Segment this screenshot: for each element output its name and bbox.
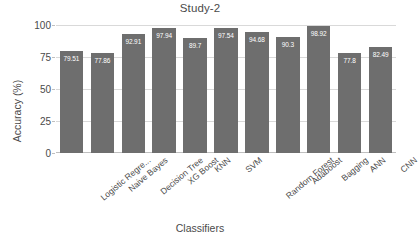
y-tick-mark — [52, 57, 55, 58]
bar-slot[interactable]: 77.8 — [334, 25, 365, 153]
y-tick-mark — [52, 25, 55, 26]
bar-value-label: 98.92 — [311, 30, 327, 37]
bar-slot[interactable]: 94.68 — [241, 25, 272, 153]
bar-slot[interactable]: 98.92 — [303, 25, 334, 153]
y-axis-title: Accuracy (%) — [11, 66, 23, 156]
y-tick-mark — [52, 89, 55, 90]
bar-slot[interactable]: 82.49 — [365, 25, 396, 153]
bar-slot[interactable]: 79.51 — [56, 25, 87, 153]
bar-slot[interactable]: 97.94 — [149, 25, 180, 153]
bar[interactable] — [60, 51, 83, 153]
y-tick-label: 0 — [45, 148, 51, 159]
bar[interactable] — [369, 47, 392, 153]
bar-value-label: 77.8 — [343, 57, 355, 64]
bar-value-label: 90.3 — [282, 41, 294, 48]
bar-value-label: 79.51 — [64, 55, 80, 62]
bar[interactable] — [338, 53, 361, 153]
bar[interactable] — [183, 38, 206, 153]
y-tick-label: 75 — [40, 52, 51, 63]
bar-value-label: 97.54 — [218, 32, 234, 39]
x-axis-title: Classifiers — [0, 222, 400, 234]
bar-slot[interactable]: 90.3 — [272, 25, 303, 153]
bar-slot[interactable]: 89.7 — [180, 25, 211, 153]
bar-value-label: 89.7 — [189, 42, 201, 49]
bar-slot[interactable]: 97.54 — [211, 25, 242, 153]
bar-slot[interactable]: 77.86 — [87, 25, 118, 153]
x-category-label: Bagging — [339, 155, 370, 183]
x-axis-category-labels: Logistic Regre...Naive BayesDecision Tre… — [56, 155, 396, 217]
bar[interactable] — [245, 32, 268, 153]
bar[interactable] — [307, 26, 330, 153]
bar-value-label: 92.91 — [125, 38, 141, 45]
y-tick-mark — [52, 121, 55, 122]
bar-value-label: 97.94 — [156, 32, 172, 39]
bar-value-label: 77.86 — [94, 57, 110, 64]
plot-area: 0255075100 79.5177.8692.9197.9489.797.54… — [56, 25, 396, 153]
chart-title: Study-2 — [0, 2, 400, 14]
bar-value-label: 82.49 — [373, 51, 389, 58]
bar[interactable] — [214, 28, 237, 153]
bar[interactable] — [122, 34, 145, 153]
bar[interactable] — [276, 37, 299, 153]
bar-value-label: 94.68 — [249, 36, 265, 43]
x-category-label: SVM — [243, 155, 264, 175]
x-category-label: ANN — [367, 155, 387, 174]
y-tick-label: 50 — [40, 84, 51, 95]
bar[interactable] — [152, 28, 175, 153]
y-tick-mark — [52, 153, 55, 154]
bar[interactable] — [91, 53, 114, 153]
x-category-label: CNN — [398, 155, 419, 175]
y-tick-label: 100 — [34, 20, 51, 31]
bar-slot[interactable]: 92.91 — [118, 25, 149, 153]
y-tick-label: 25 — [40, 116, 51, 127]
bars-group: 79.5177.8692.9197.9489.797.5494.6890.398… — [56, 25, 396, 153]
